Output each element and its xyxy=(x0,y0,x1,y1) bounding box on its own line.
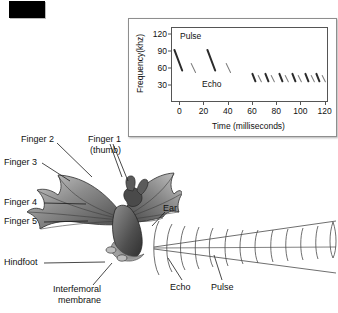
label-finger-3: Finger 3 xyxy=(4,157,37,168)
beam-axis xyxy=(154,247,336,248)
chart-plot-area: 120 90 60 30 0 20 40 60 80 100 120 Pulse… xyxy=(171,27,328,102)
label-finger-1-thumb: (thumb) xyxy=(90,145,121,156)
chart-y-axis-title: Frequency(khz) xyxy=(134,27,146,100)
x-tick-label-100: 100 xyxy=(293,107,307,116)
label-finger-5: Finger 5 xyxy=(4,216,37,227)
x-tick-mark-60 xyxy=(252,101,253,105)
pulse-sweep-mark xyxy=(174,49,184,72)
x-tick-mark-0 xyxy=(179,101,180,105)
label-interfemoral-line2: membrane xyxy=(58,295,101,306)
wavefront-9 xyxy=(271,230,273,262)
wavefront-cap xyxy=(333,222,336,258)
wavefront-7 xyxy=(240,230,243,264)
x-tick-label-80: 80 xyxy=(271,107,280,116)
black-color-swatch xyxy=(9,1,45,18)
pulse-sweep-mark xyxy=(264,73,269,83)
echo-sweep-mark xyxy=(322,75,327,83)
figure-canvas: Frequency(khz) 120 90 60 30 0 20 40 60 8… xyxy=(0,0,338,313)
pulse-sweep-mark xyxy=(278,73,283,83)
sound-beam-diagram xyxy=(150,205,338,290)
echo-sweep-mark xyxy=(297,75,302,83)
x-tick-mark-40 xyxy=(228,101,229,105)
y-tick-label-120: 120 xyxy=(153,30,167,39)
y-tick-label-30: 30 xyxy=(158,80,167,89)
pulse-sweep-mark xyxy=(291,73,296,83)
beam-cone-upper xyxy=(154,221,336,247)
x-tick-label-20: 20 xyxy=(199,107,208,116)
y-tick-label-60: 60 xyxy=(158,64,167,73)
pulse-sweep-mark xyxy=(304,73,309,83)
echo-sweep-mark xyxy=(226,63,232,74)
label-finger-1: Finger 1 xyxy=(88,134,121,145)
label-hindfoot: Hindfoot xyxy=(4,257,38,268)
label-finger-2: Finger 2 xyxy=(21,134,54,145)
x-tick-label-0: 0 xyxy=(177,107,182,116)
x-tick-mark-20 xyxy=(203,101,204,105)
echo-sweep-mark xyxy=(284,75,289,83)
bat-left-wing xyxy=(27,175,121,229)
wavefront-10 xyxy=(286,229,288,261)
wavefront-13 xyxy=(330,222,333,258)
wavefront-11 xyxy=(301,228,303,260)
chart-x-axis-title: Time (milliseconds) xyxy=(171,122,326,131)
label-interfemoral-line1: Interfemoral xyxy=(53,284,101,295)
x-tick-mark-120 xyxy=(325,101,326,105)
x-tick-label-40: 40 xyxy=(223,107,232,116)
echo-sweep-mark xyxy=(311,75,316,83)
x-tick-mark-100 xyxy=(300,101,301,105)
y-tick-label-90: 90 xyxy=(158,47,167,56)
spectrogram-chart-inset: Frequency(khz) 120 90 60 30 0 20 40 60 8… xyxy=(128,18,337,137)
wavefront-12 xyxy=(316,226,318,259)
pulse-sweep-mark xyxy=(251,73,256,83)
label-finger-4: Finger 4 xyxy=(4,197,37,208)
bat-ear-left xyxy=(126,176,135,191)
x-tick-mark-80 xyxy=(276,101,277,105)
x-tick-label-60: 60 xyxy=(247,107,256,116)
pulse-sweep-mark xyxy=(206,49,216,72)
echo-sweep-mark xyxy=(258,75,263,83)
x-tick-label-120: 120 xyxy=(317,107,331,116)
echo-sweep-mark xyxy=(191,63,197,74)
chart-sweep-marks xyxy=(172,28,327,101)
pulse-sweep-mark xyxy=(315,73,320,83)
wavefront-8 xyxy=(255,230,258,263)
echo-sweep-mark xyxy=(271,75,276,83)
